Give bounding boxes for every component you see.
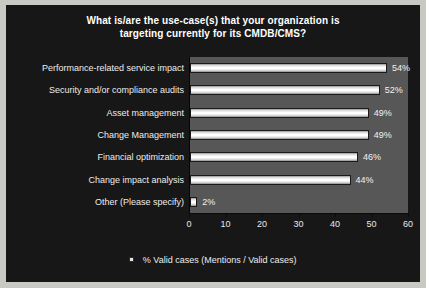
x-tick-label: 50 (357, 219, 387, 229)
bar (190, 108, 369, 118)
x-tick-mark (372, 213, 373, 217)
bar-value-label: 49% (374, 128, 392, 142)
bar (190, 197, 197, 207)
bar-value-label: 44% (356, 173, 374, 187)
chart-legend: % Valid cases (Mentions / Valid cases) (6, 250, 420, 268)
chart-title: What is/are the use-case(s) that your or… (6, 14, 420, 40)
category-label: Financial optimization (97, 150, 184, 164)
legend-marker-icon (129, 257, 134, 262)
plot-wrap: Performance-related service impactSecuri… (6, 57, 420, 222)
category-label: Change Management (97, 128, 184, 142)
chart-title-line-2: targeting currently for its CMDB/CMS? (6, 27, 420, 40)
legend-label: % Valid cases (Mentions / Valid cases) (143, 255, 297, 265)
category-label: Security and/or compliance audits (49, 83, 184, 97)
chart-title-line-1: What is/are the use-case(s) that your or… (6, 14, 420, 27)
bar (190, 85, 380, 95)
x-axis: 0102030405060 (189, 213, 408, 235)
bar-value-label: 46% (363, 150, 381, 164)
category-label: Asset management (106, 106, 184, 120)
bar-row: 44% (190, 173, 409, 187)
bar-row: 54% (190, 61, 409, 75)
x-tick-mark (299, 213, 300, 217)
x-tick-mark (189, 213, 190, 217)
x-tick-label: 30 (284, 219, 314, 229)
x-tick-mark (335, 213, 336, 217)
x-tick-mark (408, 213, 409, 217)
chart-body: What is/are the use-case(s) that your or… (6, 5, 420, 282)
chart-frame: What is/are the use-case(s) that your or… (0, 0, 426, 288)
x-tick-mark (226, 213, 227, 217)
x-tick-label: 0 (174, 219, 204, 229)
bar-row: 2% (190, 195, 409, 209)
bar-row: 52% (190, 83, 409, 97)
bar-value-label: 54% (392, 61, 410, 75)
bar (190, 130, 369, 140)
category-axis: Performance-related service impactSecuri… (6, 57, 188, 213)
category-label: Change impact analysis (88, 173, 184, 187)
bar-value-label: 52% (385, 83, 403, 97)
x-tick-label: 40 (320, 219, 350, 229)
x-tick-mark (262, 213, 263, 217)
bar-row: 49% (190, 106, 409, 120)
bar-value-label: 49% (374, 106, 392, 120)
x-tick-label: 10 (211, 219, 241, 229)
bar-row: 49% (190, 128, 409, 142)
bar-value-label: 2% (202, 195, 215, 209)
x-tick-label: 60 (393, 219, 420, 229)
category-label: Other (Please specify) (95, 195, 184, 209)
bar (190, 152, 358, 162)
bar-row: 46% (190, 150, 409, 164)
bar (190, 175, 351, 185)
category-label: Performance-related service impact (42, 61, 184, 75)
bar (190, 63, 387, 73)
plot-area: 54%52%49%49%46%44%2% (189, 57, 408, 213)
x-tick-label: 20 (247, 219, 277, 229)
